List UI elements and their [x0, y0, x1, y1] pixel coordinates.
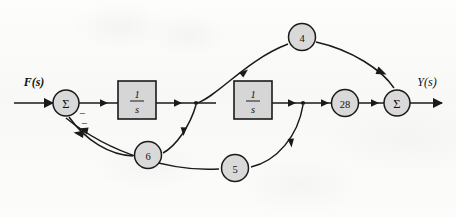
- input-label: F(s): [23, 75, 45, 89]
- arrowhead-branchB-gain28: [321, 99, 329, 107]
- gain-28-label: 28: [340, 99, 351, 110]
- sum-left-symbol: Σ: [62, 97, 69, 111]
- arrowhead-integrator2-branchB: [288, 99, 296, 107]
- arrowhead-branchB-gain5: [288, 139, 294, 148]
- arrowhead-integrator1-branchA: [174, 99, 182, 107]
- sum-right[interactable]: Σ: [384, 90, 410, 116]
- integrator-1[interactable]: 1 s: [118, 81, 156, 119]
- output-label: Y(s): [417, 75, 436, 89]
- feedforward-top-path: [197, 42, 394, 103]
- block-diagram: Σ − − Σ 1 s 1 s 4 28: [0, 0, 456, 217]
- sum-left[interactable]: Σ − −: [53, 90, 87, 129]
- gain-4[interactable]: 4: [289, 24, 316, 51]
- edge-branchA-gain6: [163, 105, 196, 153]
- gain-5-label: 5: [232, 164, 237, 175]
- gain-28[interactable]: 28: [332, 90, 359, 117]
- gain-6[interactable]: 6: [135, 142, 162, 169]
- integrator-2-denominator: s: [251, 104, 255, 115]
- integrator-2-numerator: 1: [250, 89, 255, 100]
- branch-point-b: [301, 101, 305, 105]
- sum-left-sign-2: −: [81, 117, 87, 129]
- gain-5[interactable]: 5: [222, 155, 249, 182]
- integrator-2[interactable]: 1 s: [234, 81, 272, 119]
- arrowhead-gain5-sumleft: [74, 131, 85, 139]
- integrator-1-denominator: s: [135, 104, 139, 115]
- arrowhead-gain4-sumright: [376, 67, 387, 75]
- figure-canvas: Σ − − Σ 1 s 1 s 4 28: [0, 0, 456, 217]
- gain-4-label: 4: [299, 33, 305, 44]
- arrowhead-sumleft-integrator1: [100, 99, 108, 107]
- gain-6-label: 6: [145, 151, 150, 162]
- edge-gain4-sumright: [316, 42, 394, 88]
- arrowhead-gain28-sumright: [371, 99, 379, 107]
- sum-right-symbol: Σ: [393, 97, 400, 111]
- integrator-1-numerator: 1: [134, 89, 139, 100]
- edge-gain6-sumleft: [69, 117, 133, 156]
